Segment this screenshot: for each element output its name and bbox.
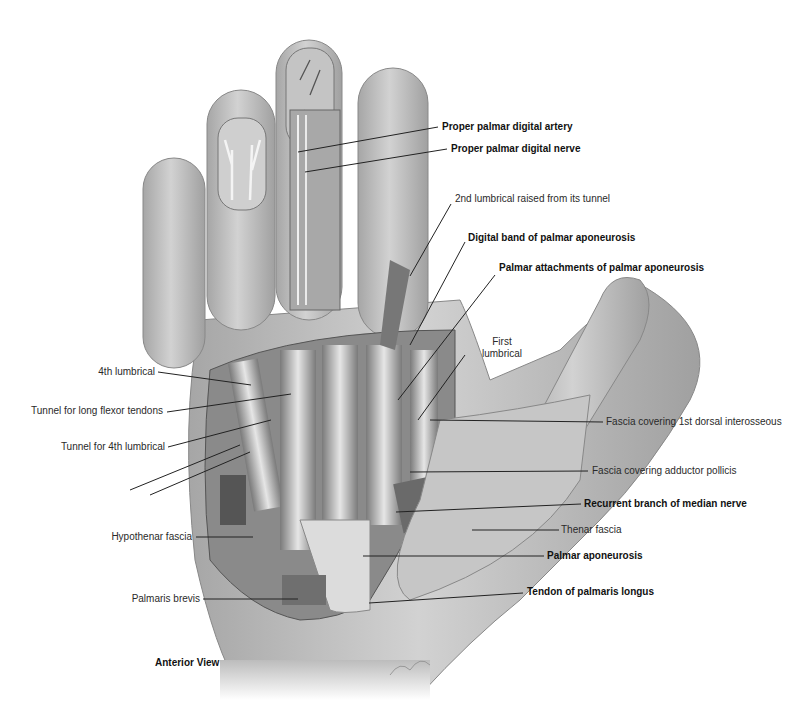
label-proper-palmar-digital-nerve: Proper palmar digital nerve bbox=[451, 143, 581, 155]
label-tunnel-long-flexor: Tunnel for long flexor tendons bbox=[0, 405, 163, 417]
label-hypothenar-fascia: Hypothenar fascia bbox=[60, 531, 192, 543]
label-tunnel-4th-lumbrical: Tunnel for 4th lumbrical bbox=[20, 441, 165, 453]
label-fascia-adductor-pollicis: Fascia covering adductor pollicis bbox=[592, 465, 737, 477]
label-4th-lumbrical: 4th lumbrical bbox=[55, 366, 155, 378]
label-first-lumbrical: First lumbrical bbox=[480, 336, 524, 360]
hand-anatomy-illustration bbox=[0, 0, 804, 720]
label-fascia-1st-dorsal-interosseous: Fascia covering 1st dorsal interosseous bbox=[606, 416, 782, 428]
label-proper-palmar-digital-artery: Proper palmar digital artery bbox=[442, 121, 573, 133]
label-recurrent-branch-median-nerve: Recurrent branch of median nerve bbox=[584, 498, 747, 510]
view-title: Anterior View bbox=[155, 657, 219, 668]
label-palmar-aponeurosis: Palmar aponeurosis bbox=[547, 550, 643, 562]
label-thenar-fascia: Thenar fascia bbox=[561, 524, 622, 536]
little-finger bbox=[143, 158, 205, 368]
label-tendon-palmaris-longus: Tendon of palmaris longus bbox=[527, 586, 654, 598]
label-palmaris-brevis: Palmaris brevis bbox=[60, 593, 200, 605]
label-digital-band: Digital band of palmar aponeurosis bbox=[468, 232, 635, 244]
label-2nd-lumbrical-raised: 2nd lumbrical raised from its tunnel bbox=[455, 193, 610, 205]
label-palmar-attachments: Palmar attachments of palmar aponeurosis bbox=[499, 262, 704, 274]
